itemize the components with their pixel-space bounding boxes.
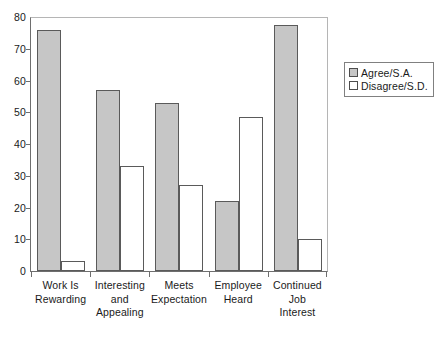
bar (274, 25, 298, 271)
bar-chart: 01020304050607080 Work IsRewardingIntere… (0, 0, 444, 337)
bar (239, 117, 263, 271)
x-axis-tick-label: ContinuedJobInterest (262, 279, 333, 320)
bar-group (209, 17, 268, 271)
bar-group (31, 17, 90, 271)
bar (96, 90, 120, 271)
x-axis-label-line: Appealing (84, 306, 155, 320)
x-axis-tick-mark (31, 272, 32, 277)
bar (215, 201, 239, 271)
x-axis-tick-mark (209, 272, 210, 277)
x-axis-tick-mark (149, 272, 150, 277)
x-axis-tick-marks (31, 272, 327, 277)
x-axis-tick-labels: Work IsRewardingInterestingandAppealingM… (31, 279, 327, 337)
bar (61, 261, 85, 271)
x-axis-label-line: Continued (262, 279, 333, 293)
y-axis-tick-label: 40 (14, 138, 26, 150)
y-axis-tick-label: 10 (14, 233, 26, 245)
y-axis-tick-labels: 01020304050607080 (0, 17, 26, 271)
bar (298, 239, 322, 271)
bar-group (149, 17, 208, 271)
bars-area (31, 17, 327, 271)
legend-label: Disagree/S.D. (361, 80, 428, 92)
bar-group (268, 17, 327, 271)
y-axis-tick-label: 60 (14, 75, 26, 87)
legend-item[interactable]: Disagree/S.D. (349, 79, 428, 92)
y-axis-tick-label: 30 (14, 170, 26, 182)
legend-swatch-icon (349, 81, 358, 90)
bar (120, 166, 144, 271)
bar (179, 185, 203, 271)
x-axis-label-line: Job (262, 293, 333, 307)
y-axis-tick-label: 70 (14, 43, 26, 55)
bar-group (90, 17, 149, 271)
x-axis-label-line: Interest (262, 306, 333, 320)
bar (155, 103, 179, 271)
x-axis-tick-mark (268, 272, 269, 277)
legend-label: Agree/S.A. (361, 67, 413, 79)
legend-item[interactable]: Agree/S.A. (349, 66, 428, 79)
y-axis-tick-label: 20 (14, 202, 26, 214)
y-axis-tick-label: 50 (14, 106, 26, 118)
x-axis-tick-mark (90, 272, 91, 277)
bar (37, 30, 61, 271)
chart-legend: Agree/S.A.Disagree/S.D. (344, 62, 434, 97)
legend-swatch-icon (349, 68, 358, 77)
x-axis-tick-mark (326, 272, 327, 277)
y-axis-tick-label: 80 (14, 11, 26, 23)
